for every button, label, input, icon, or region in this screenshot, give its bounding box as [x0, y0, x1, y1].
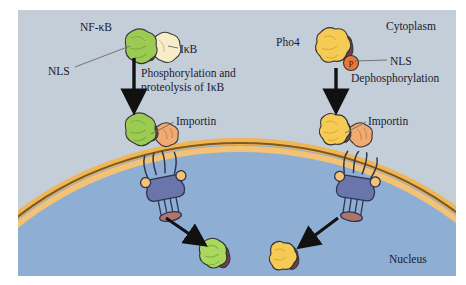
label-nls-left: NLS [48, 65, 70, 78]
label-nfkb: NF-κB [80, 21, 112, 34]
svg-text:P: P [348, 59, 353, 69]
label-nucleus: Nucleus [389, 253, 427, 266]
label-step-left-line1: Phosphorylation and [141, 67, 236, 81]
figure-nuclear-import: NF-κB IκB NLS Phosphorylation and proteo… [0, 0, 466, 285]
nuclear-pore-complex-right [322, 147, 391, 229]
pho4-in-nucleus [265, 238, 305, 276]
label-importin-right: Importin [368, 115, 408, 128]
label-cytoplasm: Cytoplasm [386, 20, 436, 33]
label-ikb: IκB [180, 43, 197, 56]
pho4-phosphorylated: P [310, 24, 374, 78]
diagram-panel: NF-κB IκB NLS Phosphorylation and proteo… [18, 10, 456, 276]
nfkb-ikb-complex [114, 24, 190, 72]
label-step-left-line2: proteolysis of IκB [141, 81, 224, 95]
nfkb-in-nucleus [195, 236, 235, 274]
label-pho4: Pho4 [276, 36, 300, 49]
label-step-right: Dephosphorylation [351, 72, 439, 85]
label-nls-right: NLS [390, 55, 412, 68]
label-importin-left: Importin [176, 115, 216, 128]
